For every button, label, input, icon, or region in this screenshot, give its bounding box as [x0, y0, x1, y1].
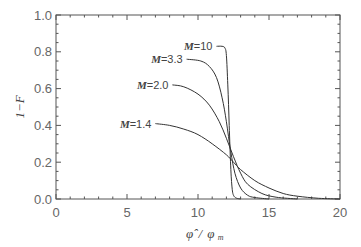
x-axis-label-main: φ̂: [186, 226, 198, 241]
curve-m-1-4: [155, 124, 340, 199]
y-tick-label: 0.8: [34, 44, 52, 59]
svg-text:φ̂ / φ m: φ̂ / φ m: [186, 226, 224, 242]
x-tick-label: 5: [123, 205, 130, 220]
x-axis-label-sub: m: [218, 233, 224, 242]
y-tick-labels: 0.00.20.40.60.81.0: [34, 8, 52, 207]
series-label: M=10: [183, 40, 212, 52]
x-axis-label: φ̂ / φ m: [186, 226, 224, 242]
chart: 0.00.20.40.60.81.0 05101520 M=10M=3.3M=2…: [0, 0, 361, 247]
x-tick-label: 15: [262, 205, 276, 220]
series-label: M=2.0: [136, 79, 169, 91]
x-axis-label-sep: /: [197, 226, 203, 241]
series-label: M=3.3: [150, 53, 183, 65]
y-tick-label: 0.4: [34, 118, 52, 133]
y-tick-label: 0.2: [34, 155, 52, 170]
series-label: M=1.4: [119, 118, 152, 130]
x-tick-label: 20: [333, 205, 347, 220]
x-axis-label-den: φ: [207, 226, 214, 241]
series-labels: M=10M=3.3M=2.0M=1.4: [119, 40, 213, 129]
data-curves: [155, 46, 340, 199]
y-tick-label: 0.6: [34, 81, 52, 96]
y-tick-label: 0.0: [34, 192, 52, 207]
y-axis-label: 1−F: [12, 94, 27, 118]
x-tick-labels: 05101520: [52, 205, 347, 220]
curve-m-2-0: [172, 85, 297, 199]
y-tick-label: 1.0: [34, 8, 52, 23]
x-tick-label: 10: [191, 205, 205, 220]
x-tick-label: 0: [52, 205, 59, 220]
